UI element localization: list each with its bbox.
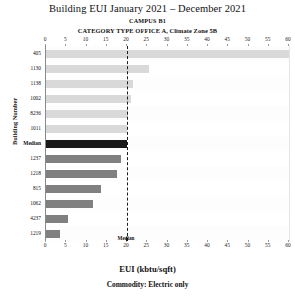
x-axis-tick-mark [187,240,188,242]
x-axis-tick-label: 10 [83,36,88,42]
bar-median[interactable] [46,140,127,148]
y-axis-tick-label: 1011 [30,125,41,131]
x-axis-bottom: 051015202530354045505560Median [45,242,288,252]
plot-area [45,46,289,241]
x-axis-tick-label: 0 [44,242,47,248]
median-axis-tick-mark [126,237,127,241]
x-axis-tick-label: 15 [103,36,108,42]
x-axis-tick-label: 40 [204,242,209,248]
x-axis-tick-mark [227,240,228,242]
x-axis-top: 051015202530354045505560 [45,36,288,46]
x-axis-tick-mark [65,240,66,242]
x-axis-tick-label: 30 [164,36,169,42]
y-axis-tick-label: 405 [33,50,41,56]
x-axis-tick-label: 10 [83,242,88,248]
x-axis-tick-label: 15 [103,242,108,248]
median-reference-line [127,46,128,241]
x-axis-title: EUI (kbtu/sqft) [0,264,295,274]
row-band [46,226,289,241]
x-axis-tick-mark [106,240,107,242]
x-axis-tick-label: 5 [64,242,67,248]
bar-1219[interactable] [46,230,60,238]
x-axis-tick-label: 35 [184,36,189,42]
x-axis-tick-label: 20 [123,36,128,42]
y-axis-tick-label: Median [23,140,41,146]
x-axis-tick-label: 45 [225,36,230,42]
bar-1011[interactable] [46,125,127,133]
chart-page: Building EUI January 2021 – December 202… [0,0,295,302]
bar-815[interactable] [46,185,101,193]
x-axis-tick-label: 50 [245,36,250,42]
x-axis-tick-label: 40 [204,36,209,42]
commodity-note: Commodity: Electric only [0,280,295,289]
bar-1130[interactable] [46,65,149,73]
plot-area-wrapper [45,46,288,241]
x-axis-tick-mark [288,240,289,242]
x-axis-tick-mark [45,240,46,242]
y-axis-tick-label: 8236 [30,110,41,116]
bar-1218[interactable] [46,170,117,178]
x-axis-tick-label: 55 [265,242,270,248]
x-axis-tick-label: 60 [285,242,290,248]
bar-405[interactable] [46,50,289,58]
x-axis-tick-label: 45 [225,242,230,248]
row-band [46,211,289,226]
chart-category-type: CATEGORY TYPE OFFICE A, Climate Zone 5B [0,27,295,34]
bar-1138[interactable] [46,80,133,88]
bar-4237[interactable] [46,215,68,223]
y-axis-tick-label: 1002 [30,95,41,101]
bar-8236[interactable] [46,110,128,118]
chart-subtitle-campus: CAMPUS B1 [0,17,295,24]
x-axis-tick-mark [146,240,147,242]
x-axis-tick-label: 30 [164,242,169,248]
y-axis-title: Building Number [11,62,18,182]
x-axis-tick-label: 20 [123,242,128,248]
y-axis-tick-label: 815 [33,185,41,191]
bar-1062[interactable] [46,200,93,208]
x-axis-tick-mark [248,240,249,242]
x-axis-tick-label: 35 [184,242,189,248]
y-axis-labels: 40511301138100282361011Median12371218815… [0,46,43,241]
x-axis-tick-label: 0 [44,36,47,42]
x-axis-tick-mark [268,240,269,242]
y-axis-tick-label: 1218 [30,170,41,176]
y-axis-tick-label: 1138 [30,80,41,86]
x-axis-tick-label: 25 [144,242,149,248]
gridline [289,46,290,241]
y-axis-tick-label: 1237 [30,155,41,161]
y-axis-tick-label: 4237 [30,215,41,221]
bar-1237[interactable] [46,155,121,163]
x-axis-tick-label: 55 [265,36,270,42]
bar-1002[interactable] [46,95,131,103]
x-axis-tick-mark [86,240,87,242]
y-axis-tick-label: 1062 [30,200,41,206]
x-axis-tick-label: 5 [64,36,67,42]
x-axis-tick-label: 25 [144,36,149,42]
y-axis-tick-label: 1219 [30,230,41,236]
y-axis-tick-label: 1130 [30,65,41,71]
x-axis-tick-label: 50 [245,242,250,248]
chart-title: Building EUI January 2021 – December 202… [0,3,295,14]
x-axis-tick-mark [207,240,208,242]
x-axis-tick-mark [167,240,168,242]
x-axis-tick-label: 60 [285,36,290,42]
